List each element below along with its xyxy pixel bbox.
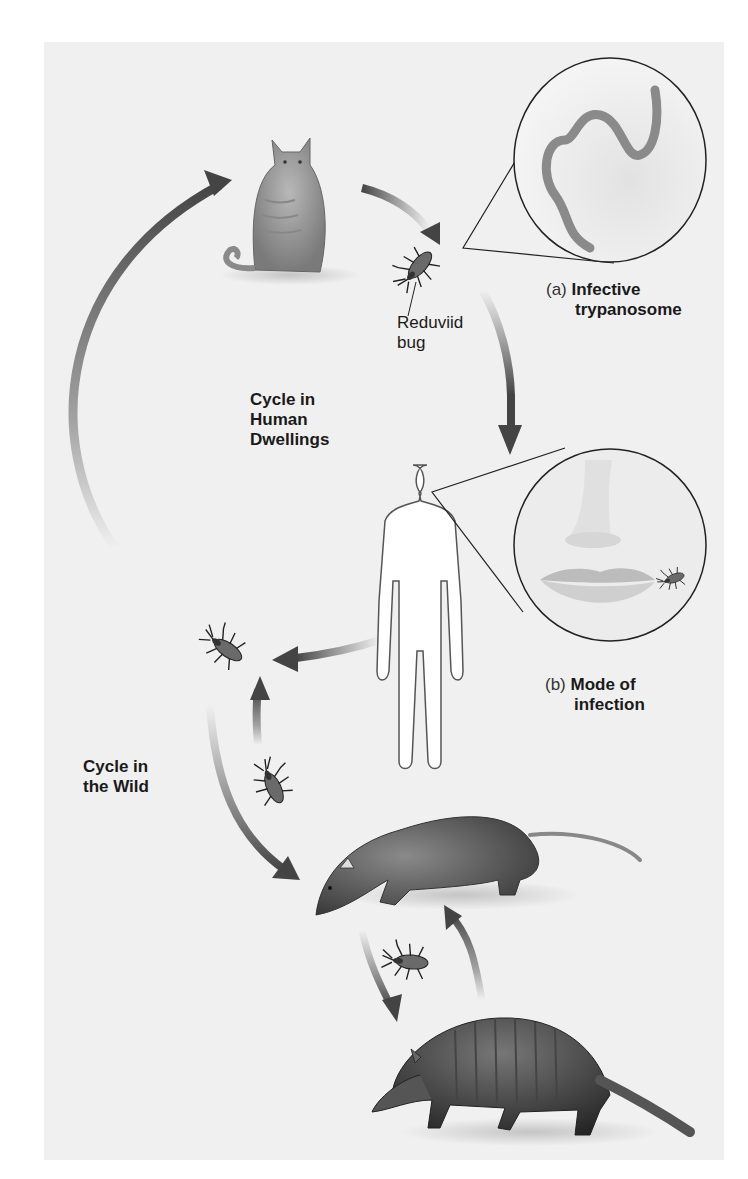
cat-illustration (220, 138, 360, 285)
arrow-bug2-to-bug1 (250, 676, 270, 745)
life-cycle-illustration (0, 0, 748, 1179)
reduviid-bug-label: Reduviid bug (397, 313, 463, 353)
opossum-illustration (316, 817, 640, 915)
arrow-cat-to-bug (362, 188, 440, 245)
label-line: bug (397, 333, 463, 353)
inset-b-title-line2: infection (545, 695, 645, 715)
label-line: Cycle in (250, 390, 329, 410)
wild-bug-1 (193, 616, 253, 674)
inset-b-title-line1: Mode of (571, 675, 636, 694)
inset-b-label: (b) Mode of infection (545, 675, 645, 715)
label-line: Dwellings (250, 430, 329, 450)
mouth-inset (432, 448, 706, 641)
inset-a-title-line1: Infective (572, 280, 641, 299)
cycle-human-dwellings-label: Cycle in Human Dwellings (250, 390, 329, 450)
inset-a-title-line2: trypanosome (546, 300, 682, 320)
label-line: Human (250, 410, 329, 430)
bug-label-leader (408, 282, 416, 316)
arrow-armadillo-to-opossum (444, 905, 482, 1000)
human-illustration (377, 465, 463, 769)
wild-bug-2 (245, 752, 300, 810)
trypanosome-inset (463, 58, 706, 263)
arrow-bug-to-human (482, 290, 522, 455)
cycle-wild-label: Cycle in the Wild (83, 757, 149, 797)
label-line: the Wild (83, 777, 149, 797)
armadillo-illustration (372, 1018, 690, 1146)
label-line: Cycle in (83, 757, 149, 777)
inset-a-prefix: (a) (546, 280, 567, 299)
arrow-opossum-to-armadillo (362, 930, 402, 1022)
inset-a-label: (a) Infective trypanosome (546, 280, 682, 320)
wild-bug-3 (381, 938, 430, 981)
label-line: Reduviid (397, 313, 463, 333)
inset-b-prefix: (b) (545, 675, 566, 694)
arrow-human-to-wild-bug (272, 640, 380, 672)
arrow-wild-to-cat (73, 170, 232, 548)
